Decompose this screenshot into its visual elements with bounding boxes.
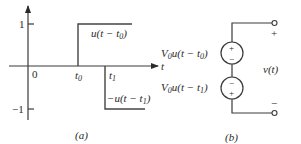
panel-a-plot: t 1 −1 0 t0 t1 u(t − t0) −u(t − t1) (a) <box>9 6 165 142</box>
t0-tick-label: t0 <box>75 69 82 83</box>
top-wire <box>232 23 272 42</box>
y-tick-label-minus1: −1 <box>12 103 24 115</box>
terminal-plus-label: + <box>271 27 277 39</box>
source-top-plus: + <box>229 43 234 53</box>
y-tick-label-1: 1 <box>19 18 25 30</box>
step-up-label: u(t − t0) <box>91 27 127 41</box>
t-axis-label: t <box>161 60 165 72</box>
terminal-minus-label: − <box>271 97 277 109</box>
output-voltage-label: v(t) <box>263 63 279 76</box>
terminal-minus-node <box>272 111 277 116</box>
panel-b-circuit: + + − V0u(t − t0) − + V0u(t − t1) − v(t)… <box>161 21 279 144</box>
step-function-diagram: t 1 −1 0 t0 t1 u(t − t0) −u(t − t1) (a) … <box>0 0 301 143</box>
origin-label: 0 <box>32 68 38 80</box>
source-bottom-label: V0u(t − t1) <box>161 81 208 95</box>
source-bottom-plus: + <box>229 88 234 98</box>
source-top-minus: − <box>229 54 234 64</box>
caption-a: (a) <box>75 129 88 142</box>
step-down-label: −u(t − t1) <box>107 92 151 106</box>
terminal-plus-node <box>272 21 277 26</box>
caption-b: (b) <box>225 131 238 143</box>
bottom-wire <box>232 99 272 113</box>
source-top-label: V0u(t − t0) <box>161 47 208 61</box>
source-bottom-minus: − <box>229 78 234 88</box>
t1-tick-label: t1 <box>109 69 116 83</box>
